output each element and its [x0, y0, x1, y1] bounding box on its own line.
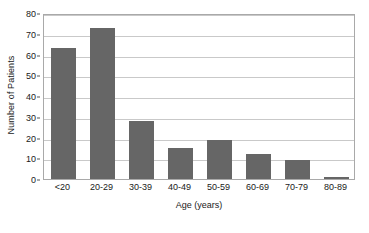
y-tick-mark: [37, 117, 40, 118]
y-tick-mark: [37, 159, 40, 160]
bar: [168, 148, 192, 179]
x-tick-label: 80-89: [324, 182, 347, 192]
bar: [285, 160, 309, 179]
bar: [129, 121, 153, 179]
y-tick-label: 60: [26, 51, 36, 61]
x-tick-label: 40-49: [168, 182, 191, 192]
x-tick-label: 60-69: [246, 182, 269, 192]
y-axis-title: Number of Patients: [0, 0, 22, 190]
y-tick-label: 70: [26, 30, 36, 40]
y-tick-mark: [37, 34, 40, 35]
x-tick-label: 70-79: [285, 182, 308, 192]
y-tick-label: 0: [31, 175, 36, 185]
bar: [51, 48, 75, 179]
plot-area: [43, 14, 355, 180]
y-tick-label: 80: [26, 9, 36, 19]
x-axis-tick-labels: <2020-2930-3940-4950-5960-6970-7980-89: [43, 182, 355, 198]
y-tick-label: 10: [26, 154, 36, 164]
y-tick-mark: [37, 55, 40, 56]
y-tick-mark: [37, 180, 40, 181]
x-axis-title: Age (years): [43, 200, 355, 210]
y-tick-mark: [37, 138, 40, 139]
y-axis-title-text: Number of Patients: [6, 56, 16, 135]
x-tick-label: 50-59: [207, 182, 230, 192]
y-tick-mark: [37, 97, 40, 98]
x-tick-label: 30-39: [129, 182, 152, 192]
bar-chart: Number of Patients 01020304050607080 <20…: [0, 0, 369, 233]
y-tick-label: 20: [26, 134, 36, 144]
x-tick-label: 20-29: [90, 182, 113, 192]
bar: [246, 154, 270, 179]
bar: [207, 140, 231, 179]
y-axis-tick-labels: 01020304050607080: [20, 14, 40, 180]
y-tick-mark: [37, 14, 40, 15]
y-tick-label: 50: [26, 71, 36, 81]
y-tick-label: 30: [26, 113, 36, 123]
y-tick-mark: [37, 76, 40, 77]
bar: [90, 28, 114, 179]
bar: [324, 177, 348, 179]
gridline: [44, 15, 354, 16]
x-tick-label: <20: [55, 182, 70, 192]
y-tick-label: 40: [26, 92, 36, 102]
